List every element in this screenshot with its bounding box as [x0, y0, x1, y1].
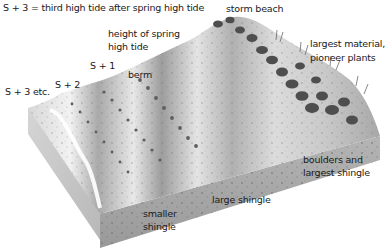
- legend-s3-definition: S + 3 = third high tide after spring hig…: [3, 2, 204, 14]
- label-s1: S + 1: [90, 60, 115, 72]
- label-berm: berm: [128, 69, 152, 81]
- label-largest-material-line1: largest material,: [310, 38, 385, 50]
- label-s2: S + 2: [55, 79, 80, 91]
- label-s3-etc: S + 3 etc.: [5, 86, 50, 98]
- label-large-shingle: large shingle: [212, 194, 271, 206]
- label-boulders-line2: largest shingle: [303, 167, 370, 179]
- label-height-spring-line2: high tide: [108, 41, 148, 53]
- label-largest-material-line2: pioneer plants: [310, 52, 376, 64]
- label-storm-beach: storm beach: [226, 3, 283, 15]
- beach-diagram: S + 3 = third high tide after spring hig…: [0, 0, 387, 250]
- label-smaller-shingle-line1: smaller: [143, 208, 177, 220]
- label-boulders-line1: boulders and: [303, 154, 363, 166]
- label-smaller-shingle-line2: shingle: [143, 221, 176, 233]
- label-height-spring-line1: height of spring: [108, 28, 180, 40]
